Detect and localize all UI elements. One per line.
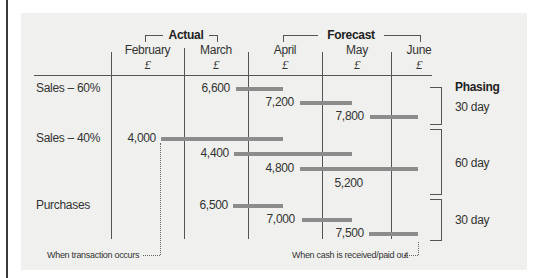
column-header-february: February	[120, 43, 175, 57]
forecast-group-label: Forecast	[318, 28, 384, 42]
value-purchases-march: 6,500	[188, 198, 228, 212]
value-sales40-april: 4,800	[254, 161, 294, 175]
column-header-june: June	[396, 43, 442, 57]
row-label-sales-60: Sales – 60%	[36, 81, 100, 95]
phasing-label: 60 day	[455, 156, 489, 170]
value-sales40-march: 4,400	[189, 146, 229, 160]
phasing-bar	[233, 204, 283, 208]
value-sales40-february: 4,000	[116, 131, 156, 145]
currency-symbol: £	[120, 58, 175, 72]
phasing-bar	[369, 232, 418, 236]
column-divider	[111, 52, 112, 239]
left-border-rule	[6, 0, 8, 278]
phasing-bracket-30-day	[430, 199, 442, 241]
cash-dotted-leader	[418, 242, 419, 255]
phasing-bar	[236, 87, 283, 91]
row-label-sales-40: Sales – 40%	[36, 131, 100, 145]
column-header-march: March	[190, 43, 242, 57]
value-sales60-april: 7,200	[254, 95, 294, 109]
transaction-dotted-leader	[160, 143, 161, 255]
phasing-bracket-60-day	[430, 129, 442, 195]
phasing-bar	[300, 101, 352, 105]
header-rule	[34, 75, 432, 76]
currency-symbol: £	[190, 58, 242, 72]
currency-symbol: £	[255, 58, 315, 72]
phasing-bar	[300, 167, 418, 171]
phasing-bar	[302, 218, 352, 222]
column-divider	[184, 48, 185, 239]
value-purchases-april: 7,000	[255, 212, 295, 226]
phasing-label: 30 day	[455, 213, 489, 227]
column-header-april: April	[255, 43, 315, 57]
value-sales60-may: 7,800	[324, 109, 364, 123]
value-sales60-march: 6,600	[190, 81, 230, 95]
phasing-bar	[370, 115, 418, 119]
currency-symbol: £	[327, 58, 387, 72]
phasing-bracket-30-day	[430, 87, 442, 125]
transaction-dotted-leader	[143, 255, 160, 256]
phasing-title: Phasing	[455, 80, 500, 94]
currency-symbol: £	[396, 58, 442, 72]
phasing-label: 30 day	[455, 100, 489, 114]
column-divider	[248, 52, 249, 239]
phasing-bar	[161, 137, 283, 141]
note-when-cash-received: When cash is received/paid out	[292, 248, 408, 262]
row-label-purchases: Purchases	[36, 198, 90, 212]
value-sales40-may: 5,200	[323, 176, 363, 190]
phasing-bar	[234, 152, 352, 156]
column-header-may: May	[327, 43, 387, 57]
actual-group-label: Actual	[163, 28, 209, 42]
value-purchases-may: 7,500	[324, 226, 364, 240]
note-when-transaction-occurs: When transaction occurs	[47, 248, 139, 262]
column-divider	[391, 52, 392, 239]
column-divider	[322, 52, 323, 239]
